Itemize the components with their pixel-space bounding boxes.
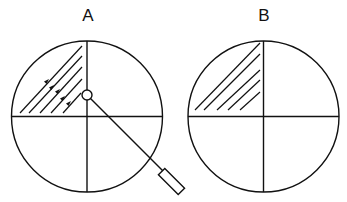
panel-a [12, 41, 185, 195]
panel-b-hatch-line [240, 92, 260, 110]
panel-b-hatch-line [204, 54, 260, 110]
panel-a-probe-shaft [91, 99, 164, 172]
diagram-canvas [0, 0, 347, 202]
panel-a-probe-handle [158, 168, 184, 194]
panel-a-hatch-line [29, 56, 82, 113]
panel-a-hatching [20, 46, 82, 113]
panel-b-hatching [195, 43, 260, 110]
panel-b [188, 41, 339, 192]
panel-a-hatch-line [40, 67, 82, 113]
